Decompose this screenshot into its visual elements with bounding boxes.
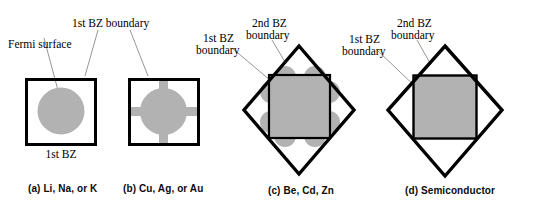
leader-line-first-bz-boundary-a xyxy=(85,30,98,76)
caption-panel-b: (b) Cu, Ag, or Au xyxy=(123,183,203,194)
caption-panel-c: (c) Be, Cd, Zn xyxy=(268,185,334,196)
panel-d-graphic xyxy=(377,40,502,176)
panel-b-graphic xyxy=(128,30,200,145)
caption-panel-a: (a) Li, Na, or K xyxy=(28,183,97,194)
brillouin-zone-figure: Fermi surface 1st BZ boundary 1st BZ 1st… xyxy=(0,0,543,213)
fermi-surface-circle-a xyxy=(38,88,85,135)
label-second-bz-boundary-c-line2: boundary xyxy=(246,29,289,42)
label-second-bz-boundary-d-line1: 2nd BZ xyxy=(397,17,432,30)
panel-c-graphic xyxy=(232,40,354,174)
fermi-surface-with-necks-b xyxy=(128,79,200,145)
label-first-bz-boundary: 1st BZ boundary xyxy=(72,17,149,30)
label-first-bz-boundary-c-line1: 1st BZ xyxy=(203,32,234,45)
caption-panel-d: (d) Semiconductor xyxy=(405,185,495,196)
leader-line-second-bz-boundary-d xyxy=(417,40,430,63)
label-second-bz-boundary-d-line2: boundary xyxy=(391,29,434,42)
label-first-bz-boundary-c-line2: boundary xyxy=(196,44,239,57)
fermi-surface-filled-square-d xyxy=(414,76,476,138)
label-fermi-surface: Fermi surface xyxy=(8,38,72,51)
label-first-bz: 1st BZ xyxy=(26,148,96,161)
label-second-bz-boundary-c-line1: 2nd BZ xyxy=(252,17,287,30)
label-first-bz-boundary-d-line1: 1st BZ xyxy=(349,33,380,46)
label-first-bz-boundary-d-line2: boundary xyxy=(342,45,385,58)
leader-line-first-bz-boundary-b xyxy=(130,30,148,76)
leader-line-second-bz-boundary-c xyxy=(272,40,285,62)
